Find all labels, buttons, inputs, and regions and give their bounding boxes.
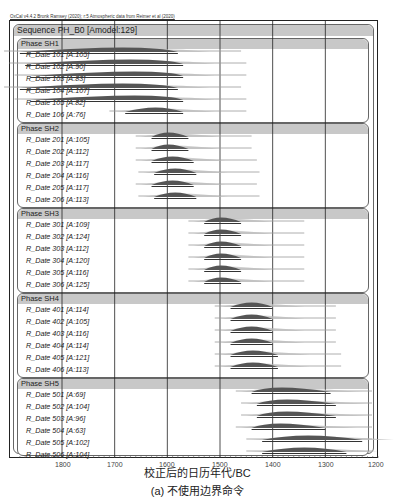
x-axis-title: 校正后的日历年代/BC <box>0 464 395 480</box>
figure-caption: (a) 不使用边界命令 <box>0 482 395 498</box>
distribution-plot <box>0 0 395 501</box>
